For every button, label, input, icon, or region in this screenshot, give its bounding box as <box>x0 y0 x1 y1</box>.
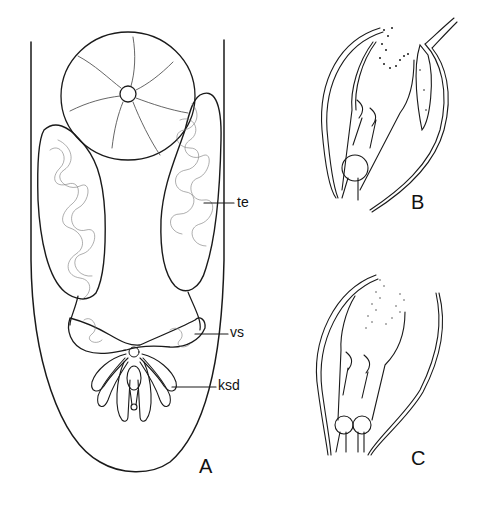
c-bulb-left <box>335 416 353 434</box>
left-testis <box>38 125 106 299</box>
panel-b-drawing <box>322 18 457 212</box>
b-outer-sheath <box>322 28 383 198</box>
right-testis <box>161 93 221 291</box>
b-bulb <box>342 155 368 181</box>
c-dots <box>365 279 405 329</box>
b-stylet-left <box>342 42 376 190</box>
label-ksd: ksd <box>218 378 240 392</box>
figure: te vs ksd A B C <box>0 0 479 505</box>
figure-drawing <box>0 0 479 505</box>
prostatic-glands <box>92 354 177 406</box>
c-bulb-right <box>353 416 371 434</box>
b-dots <box>379 27 427 111</box>
b-right-sheath <box>370 18 457 212</box>
c-stylet-left <box>338 296 355 420</box>
label-te: te <box>237 195 249 209</box>
c-outer-sheath-left <box>317 275 378 455</box>
panel-label-a: A <box>199 456 212 476</box>
b-hooks <box>353 100 376 148</box>
panel-label-c: C <box>411 448 425 468</box>
label-vs: vs <box>230 325 244 339</box>
c-stylet-right <box>372 312 405 420</box>
c-hooks <box>343 352 370 398</box>
right-vas-deferens <box>188 292 200 330</box>
panel-c-drawing <box>317 275 443 455</box>
panel-a-drawing <box>31 32 234 472</box>
panel-label-b: B <box>411 192 424 212</box>
b-gland <box>416 45 431 130</box>
